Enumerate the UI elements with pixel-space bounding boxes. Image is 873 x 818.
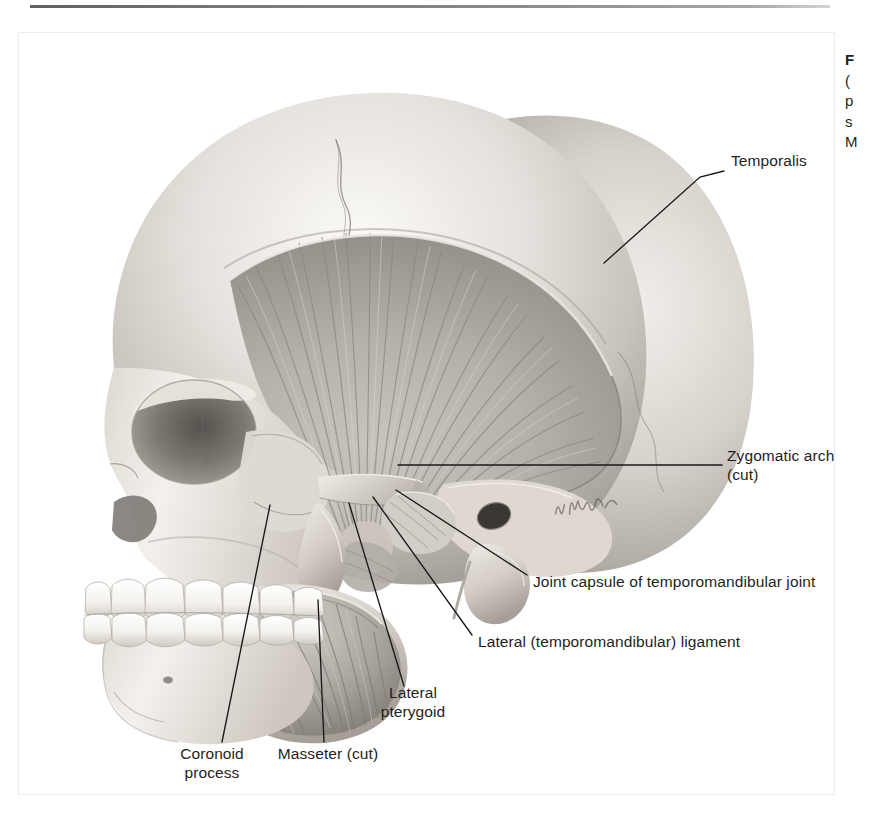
label-masseter: Masseter (cut) (268, 744, 388, 763)
caption-fragment-line-2: ( (845, 71, 873, 92)
caption-fragment-line-4: s (845, 112, 873, 133)
label-zygomatic-arch: Zygomatic arch(cut) (727, 446, 834, 484)
caption-fragment-line-1: F (845, 50, 873, 71)
label-lateral-ligament: Lateral (temporomandibular) ligament (478, 632, 740, 651)
caption-fragment-line-3: p (845, 91, 873, 112)
figure-caption-truncated: F ( p s M (845, 50, 873, 170)
skull-illustration (18, 32, 835, 795)
label-coronoid-process: Coronoidprocess (156, 744, 268, 782)
label-temporalis: Temporalis (731, 151, 807, 170)
label-joint-capsule: Joint capsule of temporomandibular joint (533, 572, 815, 591)
top-horizontal-rule (30, 5, 830, 8)
label-lateral-pterygoid: Lateralpterygoid (363, 683, 463, 721)
caption-fragment-line-5: M (845, 132, 873, 153)
page-root: Temporalis Zygomatic arch(cut) Joint cap… (0, 0, 873, 818)
